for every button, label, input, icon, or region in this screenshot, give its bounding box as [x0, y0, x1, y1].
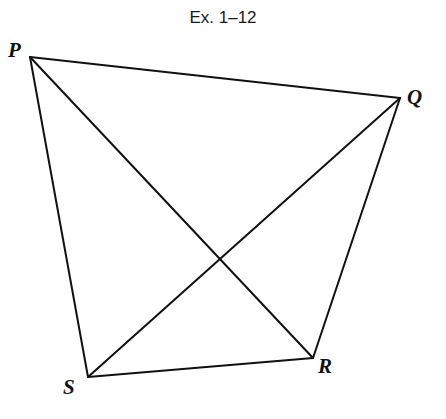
- side-pq: [30, 57, 400, 98]
- diagonal-pr: [30, 57, 313, 358]
- vertex-label-p: P: [8, 40, 21, 61]
- vertex-label-s: S: [63, 377, 75, 398]
- quadrilateral-diagram: [0, 0, 446, 419]
- figure-canvas: Ex. 1–12 P Q R S: [0, 0, 446, 419]
- vertex-label-r: R: [318, 356, 332, 377]
- side-rs: [88, 358, 313, 377]
- vertex-label-q: Q: [407, 87, 422, 108]
- side-sp: [30, 57, 88, 377]
